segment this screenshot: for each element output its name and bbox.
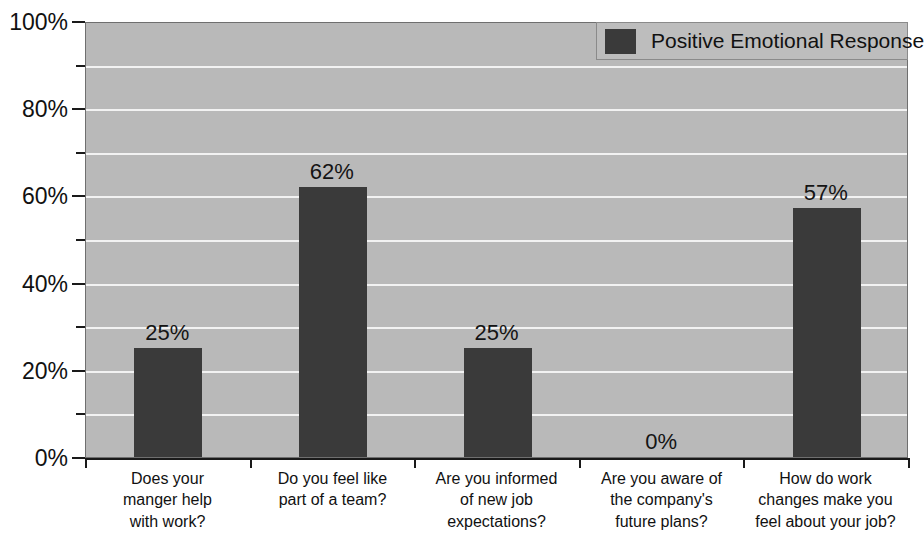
- x-axis-category-label-line: changes make you: [743, 489, 908, 510]
- bar-value-label: 57%: [766, 180, 886, 206]
- bar: [464, 348, 532, 457]
- y-axis-tick-label: 40%: [22, 270, 68, 297]
- x-axis-category-label-line: How do work: [743, 468, 908, 489]
- y-axis-tick-label: 0%: [35, 445, 68, 472]
- gridline: [86, 240, 907, 242]
- plot-area: [85, 22, 908, 458]
- x-axis-category-label-line: feel about your job?: [743, 511, 908, 532]
- x-axis-category-label: Do you feel likepart of a team?: [250, 468, 415, 511]
- bar-value-label: 25%: [107, 320, 227, 346]
- x-axis-category-label-line: of new job: [414, 489, 579, 510]
- x-axis-category-label-line: Are you informed: [414, 468, 579, 489]
- gridline: [86, 109, 907, 111]
- y-axis-tick-major: [72, 195, 85, 197]
- x-axis-tick: [250, 458, 252, 468]
- y-axis-tick-major: [72, 283, 85, 285]
- legend-swatch-positive-emotional-response: [605, 29, 636, 54]
- bar-value-label: 0%: [601, 429, 721, 455]
- x-axis-tick: [85, 458, 87, 468]
- y-axis-tick-minor: [76, 239, 85, 241]
- y-axis-tick-minor: [76, 152, 85, 154]
- legend-label: Positive Emotional Response: [651, 29, 924, 53]
- y-axis-tick-minor: [76, 65, 85, 67]
- x-axis-category-label-line: manger help: [85, 489, 250, 510]
- x-axis-category-label: Are you informedof new jobexpectations?: [414, 468, 579, 532]
- x-axis-category-label-line: future plans?: [579, 511, 744, 532]
- x-axis-category-label-line: Does your: [85, 468, 250, 489]
- x-axis-tick: [414, 458, 416, 468]
- y-axis: 0%20%40%60%80%100%: [0, 0, 85, 546]
- gridline: [86, 66, 907, 68]
- legend: Positive Emotional Response: [596, 22, 908, 60]
- y-axis-tick-minor: [76, 326, 85, 328]
- gridline: [86, 153, 907, 155]
- y-axis-tick-major: [72, 457, 85, 459]
- y-axis-tick-label: 60%: [22, 183, 68, 210]
- y-axis-tick-label: 100%: [9, 9, 68, 36]
- y-axis-tick-label: 20%: [22, 357, 68, 384]
- x-axis-line: [85, 458, 908, 460]
- bar: [793, 208, 861, 457]
- x-axis-category-label: Are you aware ofthe company'sfuture plan…: [579, 468, 744, 532]
- x-axis-tick: [908, 458, 910, 468]
- bar: [299, 187, 367, 457]
- x-axis-category-label-line: with work?: [85, 511, 250, 532]
- x-axis-tick: [743, 458, 745, 468]
- y-axis-tick-major: [72, 108, 85, 110]
- x-axis-category-label-line: expectations?: [414, 511, 579, 532]
- bar-value-label: 25%: [437, 320, 557, 346]
- bar: [134, 348, 202, 457]
- bar-value-label: 62%: [272, 159, 392, 185]
- y-axis-tick-label: 80%: [22, 96, 68, 123]
- x-axis-tick: [579, 458, 581, 468]
- x-axis-category-label: How do workchanges make youfeel about yo…: [743, 468, 908, 532]
- x-axis-category-label-line: part of a team?: [250, 489, 415, 510]
- y-axis-tick-major: [72, 370, 85, 372]
- gridline: [86, 284, 907, 286]
- x-axis-category-label-line: Do you feel like: [250, 468, 415, 489]
- x-axis-category-label: Does yourmanger helpwith work?: [85, 468, 250, 532]
- x-axis-category-label-line: Are you aware of: [579, 468, 744, 489]
- y-axis-tick-major: [72, 21, 85, 23]
- x-axis-category-label-line: the company's: [579, 489, 744, 510]
- y-axis-tick-minor: [76, 413, 85, 415]
